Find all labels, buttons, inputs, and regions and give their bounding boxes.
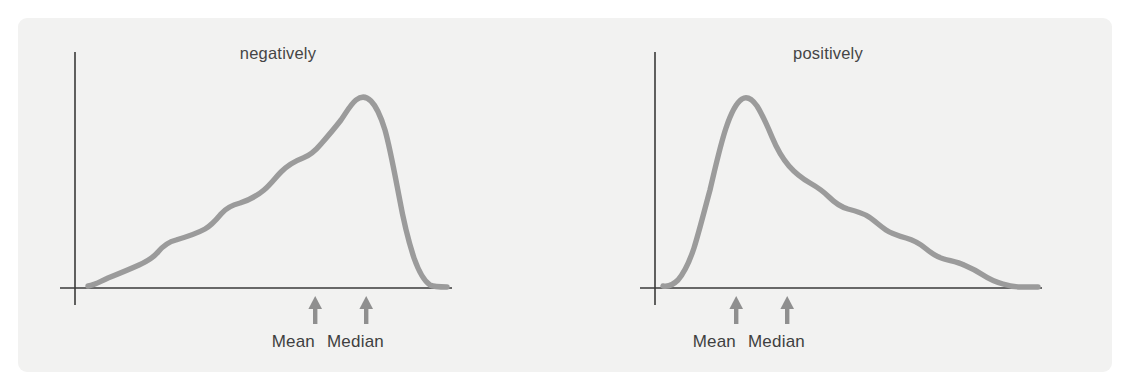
chart-positively-skewed: positively Mean Median: [640, 44, 1042, 351]
figure-svg: negatively Mean Median positively: [0, 0, 1130, 389]
left-median-label: Median: [327, 332, 384, 351]
left-distribution-curve: [88, 97, 447, 287]
left-mean-arrow-icon: [308, 296, 322, 324]
right-distribution-curve: [663, 98, 1038, 287]
left-mean-label: Mean: [272, 332, 315, 351]
right-median-arrow-icon: [780, 296, 794, 324]
right-chart-title: positively: [793, 44, 863, 62]
right-median-label: Median: [748, 332, 805, 351]
right-mean-label: Mean: [693, 332, 736, 351]
left-chart-title: negatively: [240, 44, 317, 62]
chart-negatively-skewed: negatively Mean Median: [60, 44, 452, 351]
figure-root: negatively Mean Median positively: [0, 0, 1130, 389]
right-mean-arrow-icon: [729, 296, 743, 324]
left-median-arrow-icon: [359, 296, 373, 324]
